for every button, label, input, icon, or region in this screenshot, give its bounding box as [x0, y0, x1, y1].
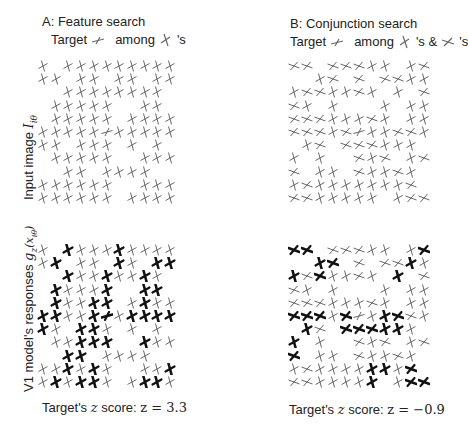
- vertical-cross-item: [340, 270, 352, 282]
- vertical-cross-item: [75, 297, 87, 309]
- vertical-cross-item: [62, 363, 74, 375]
- vertical-cross-item: [37, 363, 49, 375]
- vertical-cross-item: [151, 100, 163, 112]
- vertical-cross-item: [101, 350, 113, 362]
- vertical-cross-item: [62, 244, 74, 256]
- vertical-cross-item: [50, 152, 62, 164]
- vertical-cross-item: [327, 270, 339, 282]
- vertical-cross-item: [101, 363, 113, 375]
- vertical-cross-item: [62, 270, 74, 282]
- vertical-cross-item: [75, 270, 87, 282]
- vertical-cross-item: [88, 336, 100, 348]
- horizontal-cross-item: [392, 257, 404, 269]
- horizontal-cross-item: [327, 60, 339, 72]
- vertical-cross-item: [113, 166, 125, 178]
- vertical-cross-item: [101, 152, 113, 164]
- subtitle-among: among: [354, 34, 394, 49]
- vertical-cross-item: [139, 336, 151, 348]
- vertical-cross-item: [88, 297, 100, 309]
- vertical-cross-item: [50, 284, 62, 296]
- vertical-cross-item: [37, 376, 49, 388]
- vertical-cross-item: [340, 376, 352, 388]
- vertical-cross-item: [288, 363, 300, 375]
- vertical-cross-item: [101, 284, 113, 296]
- horizontal-cross-item: [288, 166, 300, 178]
- vertical-cross-item: [139, 284, 151, 296]
- vertical-cross-item: [62, 192, 74, 204]
- vertical-cross-item: [151, 244, 163, 256]
- vertical-cross-item: [101, 244, 113, 256]
- panel-a-title: A: Feature search: [42, 14, 145, 29]
- vertical-cross-item: [101, 113, 113, 125]
- vertical-cross-item: [301, 284, 313, 296]
- vertical-cross-item: [126, 323, 138, 335]
- subtitle-prefix: Target: [51, 32, 87, 47]
- horizontal-cross-item: [288, 310, 300, 322]
- math-subscript: iθ: [29, 115, 39, 123]
- vertical-cross-item: [75, 100, 87, 112]
- vertical-cross-item: [37, 139, 49, 151]
- vertical-cross-item: [101, 192, 113, 204]
- vertical-cross-item: [314, 336, 326, 348]
- horizontal-cross-item: [353, 323, 365, 335]
- vertical-cross-item: [88, 86, 100, 98]
- vertical-cross-item: [151, 257, 163, 269]
- horizontal-cross-item: [392, 310, 404, 322]
- horizontal-cross-item: [353, 336, 365, 348]
- horizontal-cross-item: [301, 363, 313, 375]
- vertical-cross-item: [164, 60, 176, 72]
- horizontal-cross-item: [392, 166, 404, 178]
- vertical-cross-item: [340, 363, 352, 375]
- vertical-cross-item: [151, 126, 163, 138]
- horizontal-cross-item: [301, 310, 313, 322]
- vertical-cross-item: [50, 126, 62, 138]
- vertical-cross-item: [151, 376, 163, 388]
- vertical-cross-item: [301, 139, 313, 151]
- horizontal-cross-item: [340, 139, 352, 151]
- vertical-cross-item: [392, 179, 404, 191]
- vertical-cross-item: [50, 113, 62, 125]
- horizontal-cross-item: [340, 310, 352, 322]
- math-symbol: g: [21, 253, 36, 261]
- vertical-cross-item: [88, 100, 100, 112]
- vertical-cross-item: [75, 86, 87, 98]
- vertical-cross-item: [340, 192, 352, 204]
- vertical-cross-item: [164, 126, 176, 138]
- vertical-cross-item: [366, 376, 378, 388]
- math-arg-subscript: iθ: [30, 230, 39, 237]
- vertical-cross-item: [126, 297, 138, 309]
- vertical-cross-item: [113, 244, 125, 256]
- vertical-cross-item: [37, 126, 49, 138]
- vertical-cross-item: [392, 139, 404, 151]
- math-close: ): [23, 226, 36, 230]
- vertical-cross-item: [75, 126, 87, 138]
- horizontal-cross-item: [288, 244, 300, 256]
- horizontal-cross-item: [314, 126, 326, 138]
- vertical-cross-item: [353, 179, 365, 191]
- vertical-cross-item: [62, 152, 74, 164]
- panel-a-zscore: Target's z score: z = 3.3: [42, 400, 187, 415]
- vertical-cross-item: [405, 73, 417, 85]
- vertical-cross-item: [88, 363, 100, 375]
- vertical-cross-item: [62, 100, 74, 112]
- horizontal-cross-item: [418, 86, 430, 98]
- vertical-cross-item: [50, 192, 62, 204]
- vertical-cross-item: [379, 126, 391, 138]
- vertical-cross-item: [314, 192, 326, 204]
- vertical-cross-item: [151, 284, 163, 296]
- vertical-cross-item: [75, 113, 87, 125]
- vertical-cross-item: [37, 60, 49, 72]
- vertical-cross-item: [75, 310, 87, 322]
- vertical-cross-item: [151, 60, 163, 72]
- vertical-cross-item: [405, 100, 417, 112]
- horizontal-cross-item: [353, 166, 365, 178]
- vertical-cross-item: [139, 126, 151, 138]
- target-bar-item: [353, 126, 365, 138]
- vertical-cross-item: [366, 336, 378, 348]
- vertical-cross-item: [314, 179, 326, 191]
- vertical-cross-item: [379, 113, 391, 125]
- vertical-cross-item: [126, 270, 138, 282]
- panel-b-zscore: Target's z score: z = −0.9: [289, 402, 445, 417]
- vertical-cross-item: [288, 152, 300, 164]
- vertical-cross-item: [418, 126, 430, 138]
